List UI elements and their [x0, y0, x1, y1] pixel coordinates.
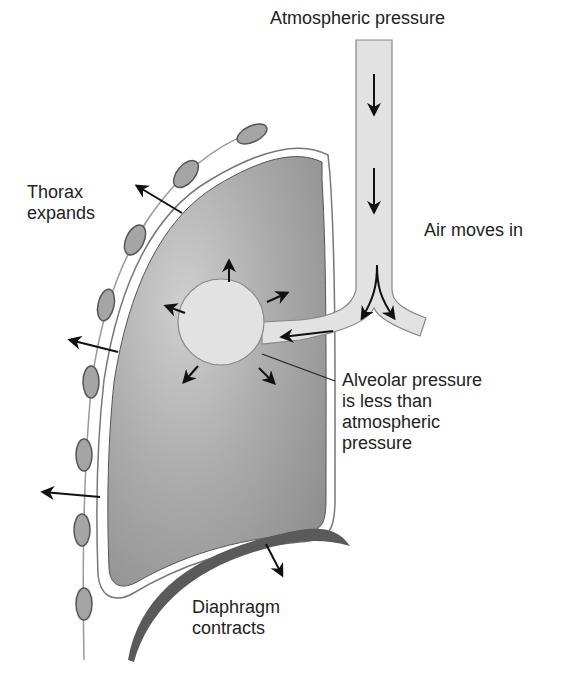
- label-alveolar-pressure: Alveolar pressure is less than atmospher…: [342, 370, 482, 454]
- diagram-drawing: [0, 0, 561, 686]
- label-atmospheric-pressure: Atmospheric pressure: [270, 8, 445, 29]
- label-diaphragm-contracts: Diaphragm contracts: [192, 597, 280, 639]
- inspiration-diagram: Atmospheric pressure Thorax expands Air …: [0, 0, 561, 686]
- alveolus: [178, 279, 264, 365]
- lung: [108, 157, 326, 586]
- label-thorax-expands: Thorax expands: [27, 182, 95, 224]
- label-air-moves-in: Air moves in: [424, 220, 523, 241]
